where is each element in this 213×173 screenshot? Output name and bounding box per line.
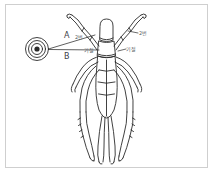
insect-head [100, 19, 113, 42]
insect-cerci [98, 116, 116, 164]
callout-left-lower: 기절 [84, 46, 94, 53]
insect-midleg-right [115, 57, 142, 92]
insect-diagram-artwork [0, 0, 213, 173]
concentric-circle-target [26, 38, 49, 61]
insect-thorax [98, 41, 116, 58]
callout-left-upper: 2번 [75, 33, 83, 40]
callout-right-upper: 2번 [139, 29, 147, 36]
insect-foreleg-left [67, 14, 99, 50]
insect-midleg-left [71, 57, 98, 92]
insect-abdomen [96, 56, 117, 118]
leader-label-b: B [64, 52, 70, 61]
leader-line-right-lower [118, 49, 126, 51]
callout-right-lower: 기절 [126, 45, 136, 52]
figure-canvas: A B 2번 기절 2번 기절 [0, 0, 213, 173]
leader-label-a: A [64, 31, 69, 40]
